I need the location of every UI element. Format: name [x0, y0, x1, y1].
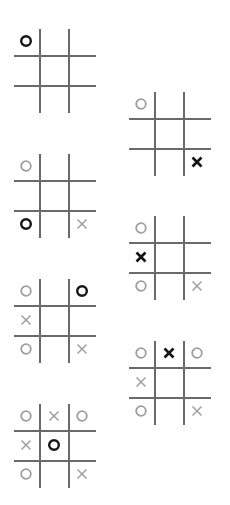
cell-r3-c1 [14, 462, 38, 486]
x-mark-icon [19, 313, 33, 327]
cell-r2-c2 [42, 308, 66, 332]
cell-r1-c2 [157, 92, 181, 116]
cell-r1-c3 [70, 29, 94, 53]
o-mark-icon [19, 409, 33, 423]
cell-r3-c2 [42, 462, 66, 486]
o-mark-icon [19, 284, 33, 298]
cell-r3-c1 [129, 274, 153, 298]
o-mark-icon [134, 346, 148, 360]
grid-horizontal-line [14, 305, 96, 307]
cell-r3-c1 [14, 337, 38, 361]
x-mark-icon [47, 409, 61, 423]
o-mark-icon [134, 404, 148, 418]
cell-r3-c2 [157, 274, 181, 298]
cell-r1-c2 [42, 29, 66, 53]
x-mark-recent-icon [162, 346, 176, 360]
cell-r1-c1 [14, 154, 38, 178]
cell-r2-c3 [70, 58, 94, 82]
x-mark-icon [19, 438, 33, 452]
o-mark-recent-icon [19, 217, 33, 231]
board-4 [129, 216, 211, 300]
cell-r2-c2 [157, 245, 181, 269]
cell-r1-c2 [157, 216, 181, 240]
cell-r1-c1 [129, 92, 153, 116]
o-mark-recent-icon [19, 34, 33, 48]
cell-r3-c2 [157, 399, 181, 423]
x-mark-icon [75, 342, 89, 356]
cell-r2-c2 [42, 433, 66, 457]
cell-r3-c2 [42, 87, 66, 111]
grid-horizontal-line [14, 55, 96, 57]
cell-r2-c1 [129, 121, 153, 145]
cell-r3-c2 [42, 337, 66, 361]
cell-r3-c2 [42, 212, 66, 236]
x-mark-icon [75, 467, 89, 481]
cell-r2-c1 [14, 308, 38, 332]
cell-r2-c3 [185, 121, 209, 145]
cell-r1-c3 [70, 279, 94, 303]
cell-r2-c1 [14, 183, 38, 207]
o-mark-icon [19, 467, 33, 481]
cell-r1-c3 [70, 404, 94, 428]
board-7 [14, 404, 96, 488]
cell-r1-c1 [14, 279, 38, 303]
cell-r1-c1 [14, 29, 38, 53]
grid-horizontal-line [129, 367, 211, 369]
cell-r3-c1 [129, 150, 153, 174]
cell-r3-c2 [157, 150, 181, 174]
grid-horizontal-line [129, 118, 211, 120]
cell-r1-c1 [129, 341, 153, 365]
o-mark-icon [19, 159, 33, 173]
cell-r3-c3 [70, 212, 94, 236]
cell-r2-c1 [129, 370, 153, 394]
cell-r2-c2 [42, 58, 66, 82]
cell-r1-c3 [185, 341, 209, 365]
cell-r2-c2 [157, 121, 181, 145]
cell-r2-c3 [185, 370, 209, 394]
cell-r3-c3 [185, 274, 209, 298]
cell-r2-c3 [70, 308, 94, 332]
board-2 [129, 92, 211, 176]
cell-r2-c1 [129, 245, 153, 269]
o-mark-recent-icon [47, 438, 61, 452]
x-mark-recent-icon [134, 250, 148, 264]
grid-horizontal-line [129, 242, 211, 244]
cell-r3-c3 [70, 87, 94, 111]
cell-r1-c2 [42, 404, 66, 428]
board-6 [129, 341, 211, 425]
cell-r3-c3 [70, 337, 94, 361]
board-1 [14, 29, 96, 113]
cell-r1-c1 [129, 216, 153, 240]
o-mark-recent-icon [75, 284, 89, 298]
board-5 [14, 279, 96, 363]
board-3 [14, 154, 96, 238]
cell-r3-c3 [70, 462, 94, 486]
o-mark-icon [134, 279, 148, 293]
x-mark-icon [190, 279, 204, 293]
cell-r1-c2 [157, 341, 181, 365]
x-mark-icon [75, 217, 89, 231]
cell-r2-c3 [185, 245, 209, 269]
o-mark-icon [190, 346, 204, 360]
grid-horizontal-line [14, 180, 96, 182]
cell-r3-c1 [14, 212, 38, 236]
cell-r3-c1 [129, 399, 153, 423]
grid-horizontal-line [14, 430, 96, 432]
cell-r2-c3 [70, 433, 94, 457]
cell-r2-c1 [14, 58, 38, 82]
o-mark-icon [19, 342, 33, 356]
cell-r2-c2 [157, 370, 181, 394]
cell-r1-c2 [42, 154, 66, 178]
cell-r1-c3 [70, 154, 94, 178]
cell-r3-c1 [14, 87, 38, 111]
cell-r1-c1 [14, 404, 38, 428]
cell-r1-c2 [42, 279, 66, 303]
cell-r3-c3 [185, 399, 209, 423]
cell-r2-c1 [14, 433, 38, 457]
o-mark-icon [134, 221, 148, 235]
x-mark-icon [134, 375, 148, 389]
o-mark-icon [75, 409, 89, 423]
cell-r1-c3 [185, 92, 209, 116]
cell-r2-c2 [42, 183, 66, 207]
o-mark-icon [134, 97, 148, 111]
